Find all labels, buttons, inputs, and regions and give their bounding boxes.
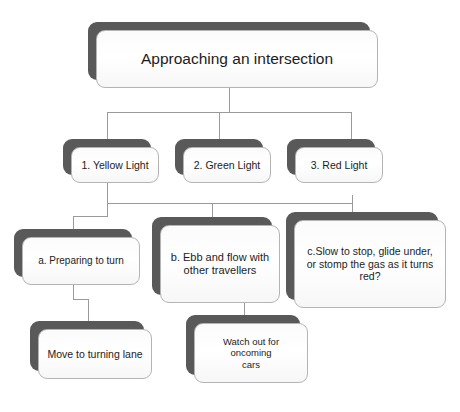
- node-approaching-an-intersection[interactable]: Approaching an intersection: [88, 22, 370, 80]
- node-label: c.Slow to stop, glide under, or stomp th…: [307, 245, 434, 283]
- node-label: Approaching an intersection: [141, 50, 333, 69]
- node-label: 2. Green Light: [194, 159, 261, 172]
- node-card: b. Ebb and flow with other travellers: [160, 225, 280, 303]
- node-label: 3. Red Light: [311, 159, 368, 172]
- node-card: c.Slow to stop, glide under, or stomp th…: [294, 220, 446, 308]
- connector-level2-bus: [107, 112, 351, 113]
- node-card: Watch out for oncoming cars: [194, 323, 308, 383]
- node-label: Watch out for oncoming cars: [202, 336, 300, 371]
- node-card: Approaching an intersection: [96, 30, 378, 88]
- connector-to-yellow: [107, 112, 108, 139]
- node-green-light[interactable]: 2. Green Light: [175, 139, 263, 175]
- connector-to-green: [219, 112, 220, 139]
- node-card: a. Preparing to turn: [22, 237, 140, 285]
- node-slow-to-stop[interactable]: c.Slow to stop, glide under, or stomp th…: [286, 212, 438, 300]
- connector-to-red: [351, 112, 352, 139]
- connector-a-stem: [73, 285, 74, 299]
- node-card: Move to turning lane: [38, 329, 152, 379]
- connector-root-stem: [229, 88, 230, 112]
- node-watch-out-for-oncoming-cars[interactable]: Watch out for oncoming cars: [186, 315, 300, 375]
- node-card: 2. Green Light: [183, 147, 271, 183]
- connector-yellow-stem: [107, 183, 108, 216]
- node-move-to-turning-lane[interactable]: Move to turning lane: [30, 321, 144, 371]
- node-red-light[interactable]: 3. Red Light: [287, 139, 375, 175]
- node-label: a. Preparing to turn: [38, 255, 124, 267]
- node-label: 1. Yellow Light: [81, 159, 148, 172]
- node-card: 3. Red Light: [295, 147, 383, 183]
- node-yellow-light[interactable]: 1. Yellow Light: [63, 139, 151, 175]
- node-label: b. Ebb and flow with other travellers: [171, 251, 269, 278]
- node-preparing-to-turn[interactable]: a. Preparing to turn: [14, 229, 132, 277]
- node-label: Move to turning lane: [47, 348, 142, 361]
- node-ebb-and-flow[interactable]: b. Ebb and flow with other travellers: [152, 217, 272, 295]
- connector-level3-bus: [107, 203, 352, 204]
- connector-to-a-jog: [73, 216, 108, 217]
- flowchart-canvas: Approaching an intersection 1. Yellow Li…: [0, 0, 460, 412]
- connector-a-jog-bottom: [73, 299, 88, 300]
- node-card: 1. Yellow Light: [71, 147, 159, 183]
